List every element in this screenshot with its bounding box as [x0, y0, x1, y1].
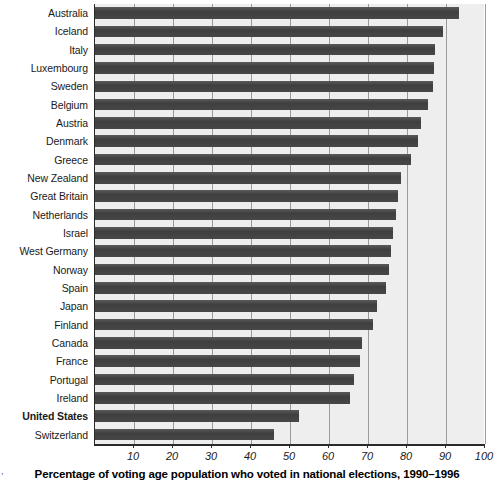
- category-label-great-britain: Great Britain: [0, 187, 88, 205]
- bar-canada: [95, 337, 362, 349]
- bar-denmark: [95, 135, 418, 147]
- bar-israel: [95, 227, 393, 239]
- category-label-netherlands: Netherlands: [0, 206, 88, 224]
- category-label-west-germany: West Germany: [0, 242, 88, 260]
- bar-italy: [95, 44, 435, 56]
- bar-iceland: [95, 26, 443, 38]
- category-label-finland: Finland: [0, 316, 88, 334]
- category-label-greece: Greece: [0, 151, 88, 169]
- x-axis-title: Percentage of voting age population who …: [0, 468, 494, 480]
- tick-90: [445, 444, 446, 448]
- bar-great-britain: [95, 190, 398, 202]
- x-axis-tick-labels: 102030405060708090100: [0, 450, 494, 466]
- category-label-switzerland: Switzerland: [0, 426, 88, 444]
- bar-greece: [95, 154, 411, 166]
- bar-norway: [95, 264, 389, 276]
- category-label-new-zealand: New Zealand: [0, 169, 88, 187]
- bar-row: Israel: [0, 224, 494, 242]
- tick-10: [133, 444, 134, 448]
- category-label-denmark: Denmark: [0, 132, 88, 150]
- category-label-ireland: Ireland: [0, 389, 88, 407]
- category-label-spain: Spain: [0, 279, 88, 297]
- tick-60: [328, 444, 329, 448]
- bar-row: Great Britain: [0, 187, 494, 205]
- category-label-italy: Italy: [0, 41, 88, 59]
- bar-row: Switzerland: [0, 426, 494, 444]
- tick-80: [406, 444, 407, 448]
- category-label-portugal: Portugal: [0, 371, 88, 389]
- bar-chart: AustraliaIcelandItalyLuxembourgSwedenBel…: [0, 0, 494, 490]
- bar-finland: [95, 319, 373, 331]
- tick-40: [250, 444, 251, 448]
- bar-row: Spain: [0, 279, 494, 297]
- bar-row: Iceland: [0, 22, 494, 40]
- bar-row: Norway: [0, 261, 494, 279]
- bar-row: Portugal: [0, 371, 494, 389]
- category-label-australia: Australia: [0, 4, 88, 22]
- bar-row: Sweden: [0, 77, 494, 95]
- tick-70: [367, 444, 368, 448]
- bar-sweden: [95, 81, 433, 93]
- category-label-luxembourg: Luxembourg: [0, 59, 88, 77]
- bar-row: Canada: [0, 334, 494, 352]
- bar-rows: AustraliaIcelandItalyLuxembourgSwedenBel…: [0, 4, 494, 444]
- tick-label-60: 60: [322, 450, 334, 462]
- bar-switzerland: [95, 429, 274, 441]
- bar-row: Denmark: [0, 132, 494, 150]
- category-label-belgium: Belgium: [0, 96, 88, 114]
- bar-row: United States: [0, 407, 494, 425]
- tick-20: [172, 444, 173, 448]
- bar-west-germany: [95, 245, 391, 257]
- bar-row: Australia: [0, 4, 494, 22]
- category-label-sweden: Sweden: [0, 77, 88, 95]
- bar-row: Greece: [0, 151, 494, 169]
- category-label-canada: Canada: [0, 334, 88, 352]
- bar-portugal: [95, 374, 354, 386]
- bar-row: Luxembourg: [0, 59, 494, 77]
- tick-label-30: 30: [205, 450, 217, 462]
- tick-label-50: 50: [283, 450, 295, 462]
- tick-50: [289, 444, 290, 448]
- category-label-austria: Austria: [0, 114, 88, 132]
- tick-label-100: 100: [475, 450, 493, 462]
- bar-row: Japan: [0, 297, 494, 315]
- tick-30: [211, 444, 212, 448]
- bar-japan: [95, 300, 377, 312]
- bar-row: Belgium: [0, 96, 494, 114]
- bar-austria: [95, 117, 421, 129]
- bar-australia: [95, 7, 459, 19]
- bar-row: Netherlands: [0, 206, 494, 224]
- bar-row: Italy: [0, 41, 494, 59]
- category-label-norway: Norway: [0, 261, 88, 279]
- bar-row: West Germany: [0, 242, 494, 260]
- tick-label-80: 80: [400, 450, 412, 462]
- category-label-japan: Japan: [0, 297, 88, 315]
- corner-note: ,: [1, 466, 4, 476]
- bar-united-states: [95, 410, 299, 422]
- bar-new-zealand: [95, 172, 401, 184]
- bar-row: France: [0, 352, 494, 370]
- tick-label-70: 70: [361, 450, 373, 462]
- bar-row: Austria: [0, 114, 494, 132]
- bar-row: Ireland: [0, 389, 494, 407]
- tick-label-40: 40: [244, 450, 256, 462]
- bar-spain: [95, 282, 386, 294]
- tick-label-20: 20: [166, 450, 178, 462]
- category-label-iceland: Iceland: [0, 22, 88, 40]
- bar-belgium: [95, 99, 428, 111]
- tick-100: [484, 444, 485, 448]
- category-label-israel: Israel: [0, 224, 88, 242]
- x-axis-ticks: [94, 444, 484, 449]
- tick-label-90: 90: [439, 450, 451, 462]
- bar-france: [95, 355, 360, 367]
- category-label-united-states: United States: [0, 407, 88, 425]
- bar-ireland: [95, 392, 350, 404]
- bar-row: Finland: [0, 316, 494, 334]
- tick-label-10: 10: [127, 450, 139, 462]
- category-label-france: France: [0, 352, 88, 370]
- bar-netherlands: [95, 209, 396, 221]
- bar-row: New Zealand: [0, 169, 494, 187]
- bar-luxembourg: [95, 62, 434, 74]
